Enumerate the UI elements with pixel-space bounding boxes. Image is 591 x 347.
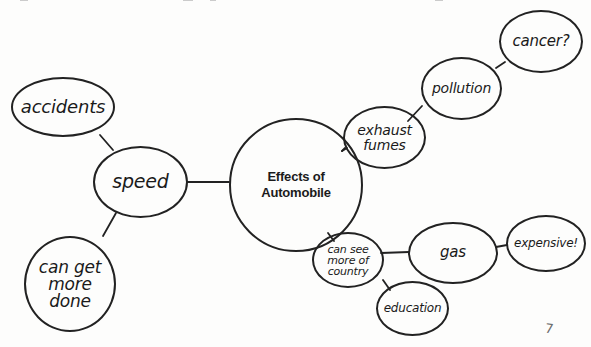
edge-can-see-more-gas: [381, 252, 409, 253]
node-exhaust-fumes-label: exhaust fumes: [357, 123, 412, 152]
node-can-see-more-of-country-label: can see more of country: [327, 244, 368, 277]
edge-speed-accidents: [100, 135, 113, 150]
node-exhaust-fumes[interactable]: exhaust fumes: [343, 106, 426, 169]
edge-speed-can-get-more-done: [103, 213, 116, 236]
node-cancer-label: cancer?: [512, 34, 569, 50]
node-can-get-more-done-label: can get more done: [39, 259, 101, 310]
diagram-canvas: Effects of Automobile speed accidents ca…: [0, 0, 591, 347]
node-speed[interactable]: speed: [93, 146, 188, 218]
node-pollution[interactable]: pollution: [421, 57, 502, 120]
node-accidents-label: accidents: [21, 98, 105, 117]
node-accidents[interactable]: accidents: [11, 77, 115, 137]
node-pollution-label: pollution: [432, 81, 491, 96]
node-education-label: education: [384, 302, 442, 315]
node-can-get-more-done[interactable]: can get more done: [24, 236, 116, 332]
node-expensive-label: expensive!: [514, 237, 578, 250]
node-education[interactable]: education: [376, 281, 449, 336]
node-gas-label: gas: [440, 245, 466, 261]
node-can-see-more-of-country[interactable]: can see more of country: [312, 232, 384, 288]
node-cancer[interactable]: cancer?: [499, 10, 583, 73]
node-gas[interactable]: gas: [408, 222, 498, 284]
edge-pollution-cancer: [496, 62, 505, 68]
node-expensive[interactable]: expensive!: [506, 215, 586, 272]
node-speed-label: speed: [112, 172, 168, 192]
central-topic-label: Effects of Automobile: [261, 169, 331, 202]
